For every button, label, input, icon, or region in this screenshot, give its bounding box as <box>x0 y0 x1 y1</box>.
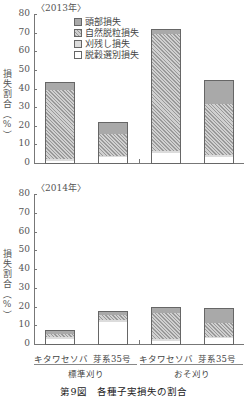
bar-segment-head <box>99 311 127 315</box>
y-tick <box>34 107 37 108</box>
y-tick <box>34 213 37 214</box>
y-tick <box>34 163 37 164</box>
y-tick <box>34 51 37 52</box>
x-label-2: 芽系35号 <box>93 352 131 364</box>
y-tick-label: 10 <box>16 138 30 148</box>
bar-segment-nat <box>46 89 74 159</box>
bar-segment-head <box>99 122 127 134</box>
y-tick <box>34 232 37 233</box>
swatch-icon <box>74 51 82 59</box>
bar-segment-sort <box>46 161 74 163</box>
bar-segment-sort <box>99 322 127 345</box>
bar <box>45 330 75 345</box>
bar-segment-head <box>205 80 233 104</box>
swatch-icon <box>74 40 82 48</box>
y-tick-label: 20 <box>16 301 30 311</box>
bar-segment-sort <box>205 157 233 163</box>
bar-segment-nat <box>205 322 233 336</box>
bar <box>204 308 234 345</box>
bar <box>151 29 181 164</box>
bar <box>45 82 75 164</box>
y-tick-label: 50 <box>16 244 30 254</box>
y-tick <box>34 70 37 71</box>
bar-segment-head <box>152 307 180 313</box>
y-tick-label: 30 <box>16 282 30 292</box>
bar <box>151 307 181 345</box>
bar-segment-head <box>46 330 74 334</box>
y-tick-label: 10 <box>16 319 30 329</box>
y-tick <box>34 144 37 145</box>
x-label-4: 芽系35号 <box>198 352 236 364</box>
swatch-icon <box>74 18 82 26</box>
chart-2013-title: 〈2013年〉 <box>36 1 86 14</box>
bar-segment-head <box>205 308 233 323</box>
x-label-1: キタワセソバ <box>34 352 88 364</box>
bar-segment-sort <box>46 339 74 344</box>
group-divider <box>139 159 140 163</box>
y-tick-label: 60 <box>16 45 30 55</box>
y-tick-label: 30 <box>16 101 30 111</box>
y-tick-label: 0 <box>16 338 30 348</box>
y-tick-label: 80 <box>16 188 30 198</box>
bar-segment-nat <box>99 133 127 155</box>
y-tick-label: 80 <box>16 8 30 18</box>
y-tick-label: 50 <box>16 64 30 74</box>
y-tick <box>34 269 37 270</box>
y-tick <box>34 344 37 345</box>
y-tick-label: 20 <box>16 120 30 130</box>
legend: 頭部損失 自然脱粒損失 刈残し損失 脱穀選別損失 <box>74 16 139 60</box>
legend-label: 脱穀選別損失 <box>85 48 139 61</box>
bar <box>98 311 128 345</box>
y-tick <box>34 14 37 15</box>
group-label-standard: 標準刈り <box>34 367 137 379</box>
y-tick <box>34 307 37 308</box>
bar-segment-head <box>46 82 74 90</box>
bar-segment-nat <box>152 33 180 150</box>
y-tick <box>34 89 37 90</box>
y-tick-label: 40 <box>16 263 30 273</box>
bar-segment-nat <box>205 103 233 154</box>
y-axis-label: 損失割合（%） <box>2 249 12 319</box>
group-label-late: おそ刈り <box>140 367 243 379</box>
bar <box>98 122 128 164</box>
group-underline <box>34 364 137 365</box>
y-tick-label: 40 <box>16 83 30 93</box>
y-tick <box>34 194 37 195</box>
y-tick-label: 0 <box>16 157 30 167</box>
y-axis-label: 損失割合（%） <box>2 69 12 139</box>
bar-segment-head <box>152 29 180 35</box>
bar-segment-sort <box>152 341 180 344</box>
y-tick-label: 60 <box>16 226 30 236</box>
bar-segment-sort <box>205 338 233 344</box>
swatch-icon <box>74 29 82 37</box>
group-divider <box>139 340 140 344</box>
bar <box>204 80 234 164</box>
y-tick-label: 70 <box>16 207 30 217</box>
x-label-3: キタワセソバ <box>139 352 193 364</box>
y-tick <box>34 33 37 34</box>
figure-caption: 第9図 各種子実損失の割合 <box>0 384 247 397</box>
bar-segment-nat <box>152 312 180 339</box>
y-tick <box>34 288 37 289</box>
bar-segment-sort <box>99 157 127 163</box>
y-tick <box>34 325 37 326</box>
bar-segment-sort <box>152 153 180 163</box>
y-tick <box>34 126 37 127</box>
y-tick-label: 70 <box>16 27 30 37</box>
legend-item-sort: 脱穀選別損失 <box>74 49 139 60</box>
y-tick <box>34 250 37 251</box>
chart-2014-title: 〈2014年〉 <box>36 181 86 194</box>
group-underline <box>140 364 243 365</box>
